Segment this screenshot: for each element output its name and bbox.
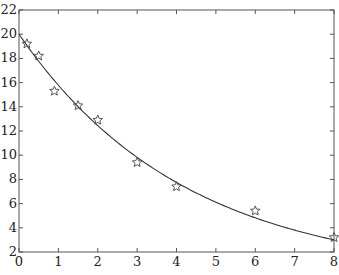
star-marker-icon [50, 86, 60, 95]
x-tick-label: 2 [94, 254, 102, 269]
plot-frame [19, 10, 334, 252]
star-marker-icon [34, 51, 44, 60]
axes-box [19, 10, 334, 252]
x-tick-label: 8 [330, 254, 338, 269]
y-tick-label: 18 [0, 50, 17, 65]
fit-curve [19, 34, 334, 240]
data-markers [22, 39, 339, 242]
chart: 012345678 246810121416182022 [0, 0, 339, 275]
y-tick-label: 6 [9, 196, 17, 211]
y-tick-label: 14 [0, 99, 17, 114]
y-tick-label: 20 [0, 26, 17, 41]
x-tick-label: 6 [251, 254, 259, 269]
y-tick-label: 4 [9, 220, 17, 235]
star-marker-icon [132, 157, 142, 166]
x-axis: 012345678 [15, 10, 338, 269]
y-axis: 246810121416182022 [0, 2, 334, 259]
y-tick-label: 2 [9, 244, 17, 259]
y-tick-label: 16 [0, 75, 17, 90]
y-tick-label: 8 [9, 171, 17, 186]
x-tick-label: 7 [290, 254, 298, 269]
x-tick-label: 1 [54, 254, 62, 269]
fit-line [19, 34, 334, 240]
y-tick-label: 12 [0, 123, 17, 138]
star-marker-icon [73, 101, 83, 110]
star-marker-icon [250, 206, 260, 215]
x-tick-label: 3 [133, 254, 141, 269]
x-tick-label: 5 [212, 254, 220, 269]
x-tick-label: 4 [172, 254, 180, 269]
y-tick-label: 10 [0, 147, 17, 162]
y-tick-label: 22 [0, 2, 17, 17]
